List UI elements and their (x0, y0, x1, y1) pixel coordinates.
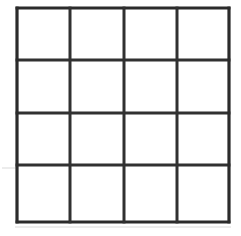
grid-cell-r3c4[interactable] (179, 115, 228, 164)
grid-cell-r4c2[interactable] (72, 167, 123, 221)
grid-cell-r1c2[interactable] (72, 10, 123, 59)
grid-cell-r1c1[interactable] (19, 10, 69, 59)
grid-cell-r4c3[interactable] (126, 167, 176, 221)
grid-cell-r2c2[interactable] (72, 62, 123, 112)
grid-cell-r4c4[interactable] (179, 167, 228, 221)
grid-cell-r3c3[interactable] (126, 115, 176, 164)
grid-cell-r3c1[interactable] (19, 115, 69, 164)
grid-cell-r2c3[interactable] (126, 62, 176, 112)
grid-cell-r4c1[interactable] (19, 167, 69, 221)
grid-canvas (0, 0, 241, 236)
grid-cell-r2c4[interactable] (179, 62, 228, 112)
grid-cell-r1c3[interactable] (126, 10, 176, 59)
grid-cell-r3c2[interactable] (72, 115, 123, 164)
grid-cell-r1c4[interactable] (179, 10, 228, 59)
grid-cell-r2c1[interactable] (19, 62, 69, 112)
